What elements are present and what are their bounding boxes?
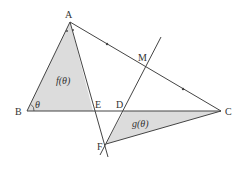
shaded-triangle-abe [27,22,93,111]
label-g-theta: g(θ) [132,118,149,130]
label-theta: θ [35,99,40,110]
label-c: C [225,106,232,117]
geometry-diagram: A B C D E F M θ f(θ) g(θ) [0,0,236,170]
label-m: M [138,52,147,63]
label-e: E [95,99,101,110]
label-d: D [116,99,123,110]
label-f: F [97,141,103,152]
label-a: A [65,9,73,20]
angle-mark-dot-left [66,30,68,32]
tick-mark-am [106,43,108,45]
label-f-theta: f(θ) [56,75,71,87]
label-b: B [15,106,22,117]
angle-mark-dot-right [72,29,74,31]
tick-mark-mc [182,88,184,90]
